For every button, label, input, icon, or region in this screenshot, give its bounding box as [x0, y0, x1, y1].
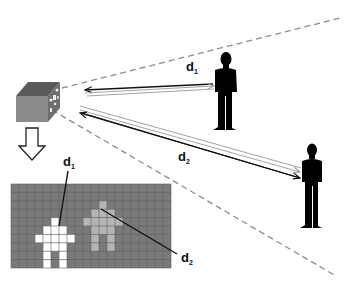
fov-upper-line: [62, 18, 340, 88]
far-person-pixel: [107, 234, 115, 242]
depth-image-grid: [11, 184, 171, 268]
far-person-pixel: [99, 218, 107, 226]
diagram-canvas: d1 d2 d1 d2: [0, 0, 354, 291]
distance-d2-label: d2: [178, 149, 190, 165]
distance-d1-label: d1: [186, 59, 198, 75]
far-signal-arrows: [80, 106, 301, 178]
far-person-pixel: [91, 234, 99, 242]
person-far-icon: [300, 144, 322, 229]
far-person-pixel: [91, 226, 99, 234]
near-person-pixel: [59, 234, 67, 242]
near-person-pixel: [59, 226, 67, 234]
far-person-pixel: [91, 209, 99, 217]
near-person-pixel: [51, 243, 59, 251]
far-person-pixel: [91, 218, 99, 226]
near-person-pixel: [43, 243, 51, 251]
near-person-pixel: [59, 243, 67, 251]
near-person-pixel: [43, 234, 51, 242]
grid-d2-label: d2: [181, 250, 193, 266]
near-person-pixel: [59, 251, 67, 259]
near-person-pixel: [51, 234, 59, 242]
near-signal-arrows: [85, 84, 214, 96]
far-person-pixel: [91, 243, 99, 251]
near-person-pixel: [67, 234, 75, 242]
far-person-pixel: [107, 226, 115, 234]
grid-d1-label: d1: [63, 154, 75, 170]
far-person-pixel: [99, 226, 107, 234]
far-person-pixel: [107, 243, 115, 251]
far-person-pixel: [83, 218, 91, 226]
near-person-pixel: [51, 218, 59, 226]
near-person-pixel: [43, 260, 51, 268]
person-near-icon: [213, 52, 237, 130]
near-person-pixel: [43, 226, 51, 234]
near-person-pixel: [43, 251, 51, 259]
far-person-pixel: [107, 218, 115, 226]
depth-camera-icon: [16, 82, 60, 122]
down-arrow-icon: [19, 128, 45, 160]
near-person-pixel: [35, 234, 43, 242]
near-person-pixel: [59, 260, 67, 268]
far-person-pixel: [99, 201, 107, 209]
near-person-pixel: [51, 226, 59, 234]
